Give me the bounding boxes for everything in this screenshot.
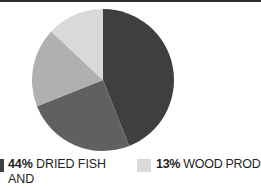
chart-legend: 44% DRIED FISH AND WHALE OIL 13% WOOD PR… — [0, 157, 261, 189]
legend-label-wood-products: WOOD PRODUCTS — [183, 157, 261, 171]
pie-chart-graphic — [31, 8, 175, 152]
legend-text-dried-fish-and-whale-oil: 44% DRIED FISH AND WHALE OIL — [8, 157, 130, 189]
legend-item-wood-products[interactable]: 13% WOOD PRODUCTS — [137, 157, 261, 172]
pie-svg — [31, 8, 175, 152]
legend-percent-dried-fish-and-whale-oil: 44% — [8, 157, 33, 171]
legend-text-wood-products: 13% WOOD PRODUCTS — [156, 157, 261, 172]
pie-slices — [32, 9, 174, 151]
legend-label-dried-fish-and-whale-oil-line2: WHALE OIL — [8, 187, 130, 189]
pie-chart-figure: 44% DRIED FISH AND WHALE OIL 13% WOOD PR… — [0, 0, 261, 189]
legend-percent-wood-products: 13% — [156, 157, 180, 171]
legend-swatch-dried-fish-and-whale-oil — [0, 159, 4, 172]
legend-item-dried-fish-and-whale-oil[interactable]: 44% DRIED FISH AND WHALE OIL — [0, 157, 140, 189]
top-divider-rule — [0, 0, 261, 2]
legend-swatch-wood-products — [137, 159, 151, 172]
